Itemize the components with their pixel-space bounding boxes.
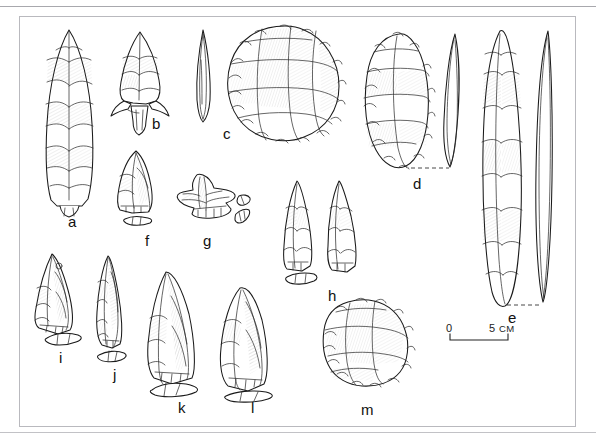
top-rule (0, 6, 596, 7)
specimen-label-l: l (251, 400, 255, 415)
specimen-label-c: c (223, 126, 231, 141)
specimen-label-i: i (59, 350, 63, 365)
specimen-label-m: m (361, 402, 374, 417)
plate-frame (19, 16, 576, 427)
lithic-artifact-plate: .o{fill:#ffffff;stroke:#1a1a1a;stroke-wi… (0, 0, 596, 440)
specimen-label-j: j (113, 367, 117, 382)
scale-max-label: 5 (489, 323, 495, 334)
specimen-label-g: g (203, 233, 212, 248)
specimen-label-h: h (328, 288, 337, 303)
specimen-label-k: k (178, 400, 186, 415)
specimen-label-d: d (413, 176, 422, 191)
specimen-label-a: a (68, 214, 77, 229)
bottom-rule (0, 432, 596, 433)
specimen-label-f: f (145, 233, 149, 248)
scale-zero-label: 0 (446, 323, 452, 334)
scale-unit-label: CM (499, 324, 514, 334)
specimen-label-b: b (152, 116, 161, 131)
